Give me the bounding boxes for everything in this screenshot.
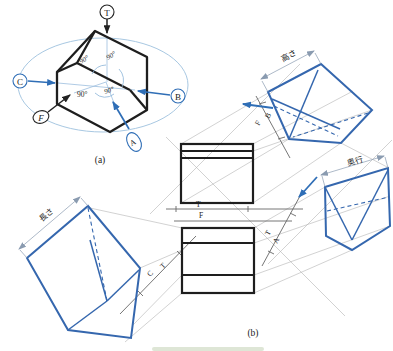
fold-label-f-b: F xyxy=(253,119,263,127)
arrow-c xyxy=(28,81,55,83)
direction-arrow-a xyxy=(299,177,317,197)
auxiliary-view-b xyxy=(268,64,372,143)
auxiliary-view-c xyxy=(27,206,140,338)
caption-b: (b) xyxy=(247,328,258,339)
dimension-c xyxy=(19,197,88,258)
dimension-label-height: 高さ xyxy=(279,47,298,63)
top-view xyxy=(182,228,254,293)
fold-label-t-front: T xyxy=(196,200,201,209)
fold-label-t-c: T xyxy=(158,261,168,271)
pictorial-object xyxy=(57,31,147,132)
cropped-caption-strip xyxy=(152,347,264,351)
badge-f-label: F xyxy=(37,113,44,123)
pictorial-group: 90° 90° 90° 90° T C B F A (a) xyxy=(13,5,188,166)
fold-labels: T F T C T A F B xyxy=(145,111,282,278)
front-view xyxy=(181,144,253,203)
dimension-label-length: 長さ xyxy=(38,206,56,223)
badge-b-label: B xyxy=(175,92,181,102)
caption-a: (a) xyxy=(95,155,106,166)
fold-label-b: B xyxy=(263,111,273,120)
projection-diagram: T F T C T A F B 高さ xyxy=(0,0,393,351)
dimension-label-depth: 奥行 xyxy=(346,154,364,168)
fold-label-f-front: F xyxy=(199,211,203,220)
badge-c-label: C xyxy=(17,77,23,87)
direction-arrow-b xyxy=(243,104,273,108)
angle-label-3: 90° xyxy=(77,90,88,99)
fold-label-c: C xyxy=(145,269,155,279)
fold-lines xyxy=(120,96,303,314)
figure-canvas: T F T C T A F B 高さ xyxy=(0,0,393,351)
badge-t-label: T xyxy=(104,8,110,18)
